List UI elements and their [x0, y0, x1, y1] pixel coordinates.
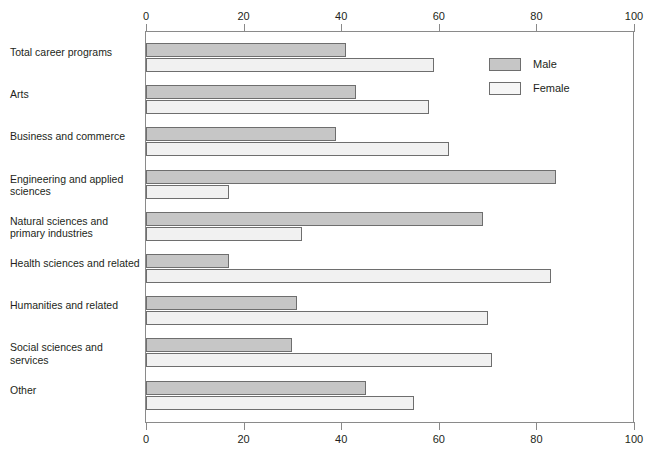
bar-female [146, 100, 429, 114]
axis-line-bottom [146, 422, 634, 423]
bar-male [146, 170, 556, 184]
axis-tick-label-top-80: 80 [516, 10, 556, 22]
axis-tick-label-top-100: 100 [614, 10, 649, 22]
axis-tick-label-top-20: 20 [224, 10, 264, 22]
axis-tick-bottom-100 [634, 422, 635, 430]
axis-tick-bottom-20 [244, 422, 245, 430]
axis-tick-label-bottom-20: 20 [224, 433, 264, 445]
legend-item-female: Female [489, 78, 619, 98]
axis-tick-label-top-60: 60 [419, 10, 459, 22]
legend-item-male: Male [489, 54, 619, 74]
male-swatch-icon [489, 58, 521, 71]
bar-female [146, 396, 414, 410]
bar-male [146, 381, 366, 395]
category-label: Engineering and applied sciences [10, 173, 142, 198]
bar-female [146, 185, 229, 199]
category-label: Natural sciences and primary industries [10, 215, 142, 240]
axis-tick-top-40 [341, 24, 342, 32]
category-label: Social sciences and services [10, 341, 142, 366]
bar-female [146, 58, 434, 72]
bar-male [146, 212, 483, 226]
axis-line-top [146, 31, 634, 32]
axis-tick-top-80 [536, 24, 537, 32]
axis-tick-bottom-80 [536, 422, 537, 430]
bar-male [146, 254, 229, 268]
bar-female [146, 227, 302, 241]
axis-tick-top-20 [244, 24, 245, 32]
axis-tick-top-100 [634, 24, 635, 32]
category-label: Arts [10, 88, 142, 101]
bar-male [146, 296, 297, 310]
bar-male [146, 43, 346, 57]
axis-tick-label-bottom-40: 40 [321, 433, 361, 445]
bar-male [146, 85, 356, 99]
bar-female [146, 311, 488, 325]
category-label: Business and commerce [10, 130, 142, 143]
legend-label-female: Female [533, 82, 570, 95]
bar-female [146, 269, 551, 283]
axis-tick-label-bottom-80: 80 [516, 433, 556, 445]
legend-label-male: Male [533, 58, 557, 71]
axis-tick-bottom-40 [341, 422, 342, 430]
axis-line-right [633, 31, 634, 423]
bar-male [146, 338, 292, 352]
axis-tick-label-top-0: 0 [126, 10, 166, 22]
axis-tick-top-60 [439, 24, 440, 32]
bar-chart: 002020404060608080100100 Total career pr… [0, 0, 649, 459]
female-swatch-icon [489, 82, 521, 95]
bar-female [146, 142, 449, 156]
axis-tick-label-bottom-100: 100 [614, 433, 649, 445]
axis-tick-label-bottom-0: 0 [126, 433, 166, 445]
axis-tick-bottom-0 [146, 422, 147, 430]
category-label: Total career programs [10, 46, 142, 59]
category-label: Other [10, 384, 142, 397]
axis-tick-top-0 [146, 24, 147, 32]
category-label: Health sciences and related [10, 257, 142, 270]
axis-tick-label-top-40: 40 [321, 10, 361, 22]
category-label: Humanities and related [10, 299, 142, 312]
bar-male [146, 127, 336, 141]
axis-tick-label-bottom-60: 60 [419, 433, 459, 445]
bar-female [146, 353, 492, 367]
chart-legend: Male Female [489, 54, 619, 102]
axis-tick-bottom-60 [439, 422, 440, 430]
